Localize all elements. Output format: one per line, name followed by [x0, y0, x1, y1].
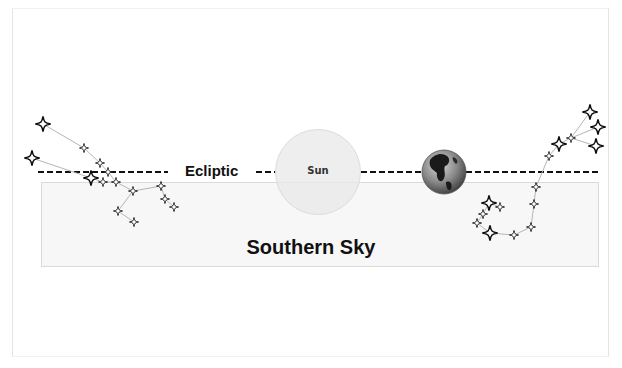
star-icon: [496, 203, 505, 212]
star-icon: [114, 207, 123, 216]
star-icon: [527, 223, 536, 232]
star-icon: [567, 134, 576, 143]
star-icon: [481, 195, 496, 210]
star-icon: [588, 138, 603, 153]
star-icon: [157, 182, 166, 191]
star-icon: [590, 119, 605, 134]
star-icon: [582, 104, 597, 119]
star-icon: [530, 200, 539, 209]
star-icon: [479, 210, 488, 219]
earth-globe-icon: [422, 150, 466, 194]
star-icon: [473, 219, 482, 228]
star-icon: [35, 116, 50, 131]
star-icon: [551, 136, 566, 151]
right-constellation-lines: [477, 112, 598, 235]
star-icon: [532, 183, 541, 192]
sun-label: Sun: [275, 165, 361, 176]
ecliptic-label: Ecliptic: [185, 162, 238, 179]
star-icon: [99, 178, 108, 187]
star-icon: [24, 150, 39, 165]
star-icon: [129, 187, 138, 196]
star-icon: [130, 218, 139, 227]
southern-sky-label: Southern Sky: [0, 236, 622, 259]
